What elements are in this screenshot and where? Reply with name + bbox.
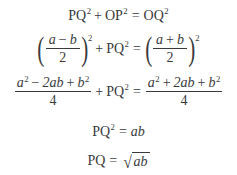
operator-equals: =: [129, 84, 145, 100]
equation-line-5: PQ = √ ab: [0, 147, 237, 175]
exponent-2: 2: [24, 74, 28, 84]
variable-b: b: [70, 32, 77, 47]
operator-minus: −: [56, 32, 70, 47]
equation-line-4: PQ2 = ab: [0, 117, 237, 146]
variable-b: b: [177, 32, 184, 47]
operator-plus: +: [163, 32, 177, 47]
term-pq: PQ: [87, 153, 105, 169]
radical-icon: √: [124, 154, 132, 171]
fraction-left-expanded: a2−2ab+b2 4: [15, 75, 92, 108]
operator-plus: +: [63, 75, 77, 90]
fraction-denominator: 4: [146, 91, 223, 108]
left-parenthesis: (: [38, 35, 45, 63]
operator-plus: +: [92, 84, 106, 100]
operator-plus: +: [195, 75, 209, 90]
exponent-2: 2: [164, 6, 168, 16]
group-right-fraction-squared: ( a+b 2 ) 2: [145, 32, 200, 65]
math-derivation: PQ2 + OP2 = OQ2 ( a−b 2 ) 2 + PQ2 = ( a+…: [0, 0, 237, 175]
fraction-denominator: 2: [153, 48, 187, 65]
term-pq-squared: PQ2: [68, 8, 91, 24]
fraction-a-minus-b-over-2: a−b 2: [46, 32, 80, 65]
right-parenthesis: ): [188, 35, 195, 63]
fraction-numerator: a2+2ab+b2: [146, 75, 223, 91]
operator-equals: =: [105, 153, 121, 169]
exponent-2: 2: [155, 74, 159, 84]
term-pq: PQ: [106, 84, 124, 99]
term-pq-squared: PQ2: [106, 84, 129, 100]
term-ab: ab: [131, 124, 145, 140]
exponent-2: 2: [195, 33, 199, 43]
right-parenthesis: ): [81, 35, 88, 63]
term-oq-squared: OQ2: [144, 8, 169, 24]
operator-plus: +: [160, 75, 174, 90]
fraction-denominator: 2: [46, 48, 80, 65]
variable-b: b: [77, 75, 84, 90]
exponent-2: 2: [216, 74, 220, 84]
radicand-ab: ab: [132, 152, 150, 170]
term-op-squared: OP2: [105, 8, 128, 24]
exponent-2: 2: [85, 74, 89, 84]
operator-minus: −: [29, 75, 43, 90]
variable-a: a: [17, 75, 24, 90]
term-pq-squared: PQ2: [92, 124, 115, 140]
term-2ab: 2ab: [174, 75, 195, 90]
operator-plus: +: [91, 8, 105, 24]
fraction-denominator: 4: [15, 91, 92, 108]
operator-equals: =: [129, 41, 145, 57]
term-pq-squared: PQ2: [106, 41, 129, 57]
left-parenthesis: (: [145, 35, 152, 63]
equation-line-1: PQ2 + OP2 = OQ2: [0, 4, 237, 27]
equation-line-2: ( a−b 2 ) 2 + PQ2 = ( a+b 2 ) 2: [0, 27, 237, 70]
variable-a: a: [49, 32, 56, 47]
fraction-a-plus-b-over-2: a+b 2: [153, 32, 187, 65]
operator-plus: +: [92, 41, 106, 57]
operator-equals: =: [115, 124, 131, 140]
term-oq: OQ: [144, 8, 164, 23]
group-left-fraction-squared: ( a−b 2 ) 2: [37, 32, 92, 65]
term-pq: PQ: [92, 124, 110, 139]
fraction-numerator: a−b: [46, 32, 80, 48]
variable-a: a: [148, 75, 155, 90]
operator-equals: =: [128, 8, 144, 24]
equation-line-3: a2−2ab+b2 4 + PQ2 = a2+2ab+b2 4: [0, 70, 237, 113]
square-root-ab: √ ab: [123, 152, 149, 170]
term-op: OP: [105, 8, 123, 23]
fraction-right-expanded: a2+2ab+b2 4: [146, 75, 223, 108]
term-2ab: 2ab: [42, 75, 63, 90]
fraction-numerator: a2−2ab+b2: [15, 75, 92, 91]
term-pq: PQ: [68, 8, 86, 23]
variable-b: b: [208, 75, 215, 90]
fraction-numerator: a+b: [153, 32, 187, 48]
term-pq: PQ: [106, 41, 124, 56]
